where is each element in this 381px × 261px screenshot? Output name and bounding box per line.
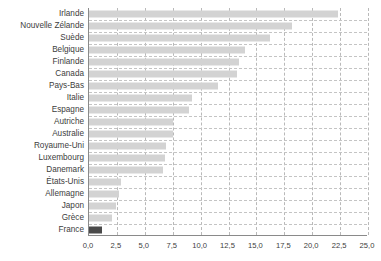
bar-row [89, 212, 367, 224]
bar-row [89, 164, 367, 176]
bar-row [89, 32, 367, 44]
y-axis-label: Italie [0, 94, 84, 102]
x-axis-tick-label: 15,0 [248, 241, 263, 250]
bar-row [89, 128, 367, 140]
bar-espagne [89, 107, 189, 114]
bar-pays-bas [89, 83, 218, 90]
x-axis-tick-labels: 0,02,55,07,510,012,515,017,520,022,525,0 [0, 239, 381, 253]
vertical-gridline [368, 8, 369, 235]
y-axis-label: Belgique [0, 46, 84, 54]
bar-row [89, 140, 367, 152]
x-axis-tick-label: 25,0 [360, 241, 375, 250]
bar-danemark [89, 167, 163, 174]
bar-row [89, 68, 367, 80]
y-axis-label: Irlande [0, 10, 84, 18]
bar-row [89, 20, 367, 32]
bar--tats-unis [89, 179, 121, 186]
bar-italie [89, 95, 192, 102]
y-axis-label: Danemark [0, 166, 84, 174]
x-axis-tick-label: 5,0 [139, 241, 150, 250]
y-axis-label: Espagne [0, 106, 84, 114]
y-axis-label: Australie [0, 130, 84, 138]
x-axis-tick-label: 2,5 [111, 241, 122, 250]
x-axis-tick-label: 0,0 [83, 241, 94, 250]
x-axis-tick-label: 10,0 [192, 241, 207, 250]
bar-autriche [89, 119, 173, 126]
bar-row [89, 56, 367, 68]
y-axis-label: France [0, 226, 84, 234]
y-axis-label: Royaume-Uni [0, 142, 84, 150]
bar-canada [89, 71, 237, 78]
y-axis-label: Grèce [0, 214, 84, 222]
y-axis-label: Allemagne [0, 190, 84, 198]
bar-allemagne [89, 191, 119, 198]
y-axis-label: Suède [0, 34, 84, 42]
y-axis-label: Pays-Bas [0, 82, 84, 90]
bars-layer [89, 8, 367, 235]
y-axis-label: Finlande [0, 58, 84, 66]
bar-row [89, 44, 367, 56]
bar-su-de [89, 35, 270, 42]
bar-row [89, 92, 367, 104]
bar-row [89, 80, 367, 92]
bar-row [89, 200, 367, 212]
bar-gr-ce [89, 215, 112, 222]
bar-row [89, 224, 367, 236]
bar-irlande [89, 11, 338, 18]
bar-row [89, 116, 367, 128]
y-axis-label: États-Unis [0, 178, 84, 186]
plot-area [88, 8, 367, 236]
bar-luxembourg [89, 155, 165, 162]
bar-row [89, 104, 367, 116]
bar-chart: IrlandeNouvelle ZélandeSuèdeBelgiqueFinl… [0, 0, 381, 261]
y-axis-label: Japon [0, 202, 84, 210]
bar-nouvelle-z-lande [89, 23, 292, 30]
bar-row [89, 152, 367, 164]
bar-royaume-uni [89, 143, 166, 150]
bar-row [89, 8, 367, 20]
x-axis-tick-label: 20,0 [304, 241, 319, 250]
y-axis-label: Luxembourg [0, 154, 84, 162]
bar-row [89, 176, 367, 188]
bar-france [89, 227, 102, 234]
x-axis-tick-label: 17,5 [276, 241, 291, 250]
x-axis-tick-label: 22,5 [332, 241, 347, 250]
y-axis-label: Canada [0, 70, 84, 78]
x-axis-tick-label: 12,5 [220, 241, 235, 250]
bar-row [89, 188, 367, 200]
x-axis-tick-label: 7,5 [166, 241, 177, 250]
bar-japon [89, 203, 116, 210]
bar-australie [89, 131, 173, 138]
y-axis-label: Autriche [0, 118, 84, 126]
y-axis-category-labels: IrlandeNouvelle ZélandeSuèdeBelgiqueFinl… [0, 8, 84, 236]
bar-belgique [89, 47, 245, 54]
bar-finlande [89, 59, 239, 66]
y-axis-label: Nouvelle Zélande [0, 22, 84, 30]
